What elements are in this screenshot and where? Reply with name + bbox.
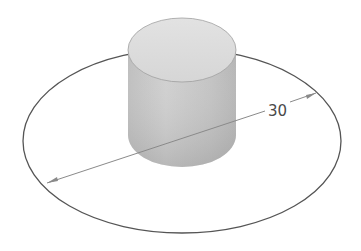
arrowhead-right-icon [306,93,316,99]
dimension-value[interactable]: 30 [268,102,287,120]
arrowhead-left-icon [47,177,58,183]
cylinder-solid[interactable] [128,18,236,167]
cylinder-top-face[interactable] [128,18,236,82]
cad-viewport[interactable]: 30 [0,0,361,251]
